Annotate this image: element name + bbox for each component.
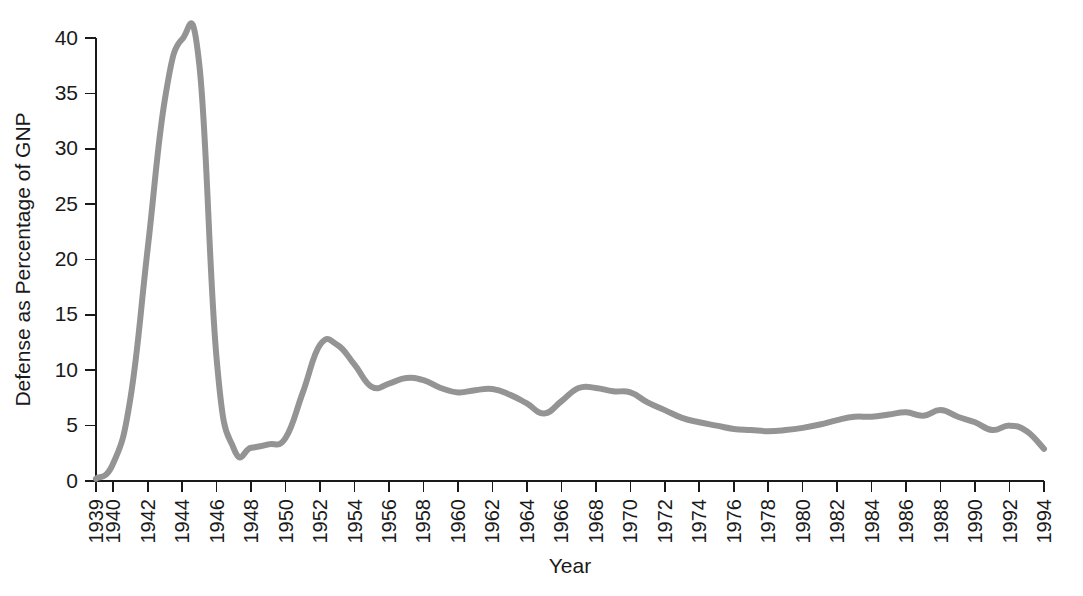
x-tick-label: 1960	[447, 499, 469, 544]
x-tick-label: 1994	[1033, 499, 1055, 544]
y-tick-label: 0	[66, 469, 78, 492]
x-tick-label: 1966	[550, 499, 572, 544]
line-chart-plot: 0510152025303540 19391940194219441946194…	[0, 0, 1083, 596]
y-tick-label: 25	[55, 192, 78, 215]
x-tick-label: 1940	[102, 499, 124, 544]
x-axis-title: Year	[549, 554, 591, 577]
y-tick-label: 10	[55, 358, 78, 381]
x-tick-label: 1982	[826, 499, 848, 544]
x-tick-label: 1944	[171, 499, 193, 544]
x-tick-label: 1952	[309, 499, 331, 544]
defense-gnp-series-line	[96, 23, 1044, 479]
x-tick-label: 1962	[481, 499, 503, 543]
x-tick-label: 1976	[723, 499, 745, 544]
x-tick-group	[96, 481, 1044, 492]
x-tick-label: 1956	[378, 499, 400, 544]
y-tick-label: 30	[55, 136, 78, 159]
x-tick-label: 1948	[240, 499, 262, 544]
y-tick-label: 40	[55, 26, 78, 49]
y-tick-label: 15	[55, 302, 78, 325]
x-tick-label: 1958	[412, 499, 434, 544]
x-tick-label: 1942	[137, 499, 159, 544]
x-tick-label-group: 1939194019421944194619481950195219541956…	[85, 499, 1055, 544]
x-tick-label: 1978	[757, 499, 779, 544]
x-tick-label: 1980	[792, 499, 814, 544]
y-tick-label: 5	[66, 413, 78, 436]
chart-container: 0510152025303540 19391940194219441946194…	[0, 0, 1083, 596]
y-tick-label: 35	[55, 81, 78, 104]
y-tick-label-group: 0510152025303540	[55, 26, 78, 492]
x-tick-label: 1954	[344, 499, 366, 544]
x-tick-label: 1986	[895, 499, 917, 544]
y-tick-label: 20	[55, 247, 78, 270]
x-tick-label: 1988	[930, 499, 952, 544]
x-tick-label: 1968	[585, 499, 607, 544]
x-tick-label: 1946	[206, 499, 228, 544]
x-tick-label: 1970	[619, 499, 641, 544]
x-tick-label: 1972	[654, 499, 676, 544]
x-tick-label: 1992	[999, 499, 1021, 544]
x-tick-label: 1990	[964, 499, 986, 544]
y-axis-title: Defense as Percentage of GNP	[11, 112, 34, 406]
x-tick-label: 1984	[861, 499, 883, 544]
x-axis-group: 1939194019421944194619481950195219541956…	[85, 481, 1055, 544]
y-axis-group: 0510152025303540	[55, 26, 96, 492]
x-tick-label: 1974	[688, 499, 710, 544]
y-tick-group	[85, 38, 96, 481]
x-tick-label: 1950	[275, 499, 297, 544]
x-tick-label: 1964	[516, 499, 538, 544]
